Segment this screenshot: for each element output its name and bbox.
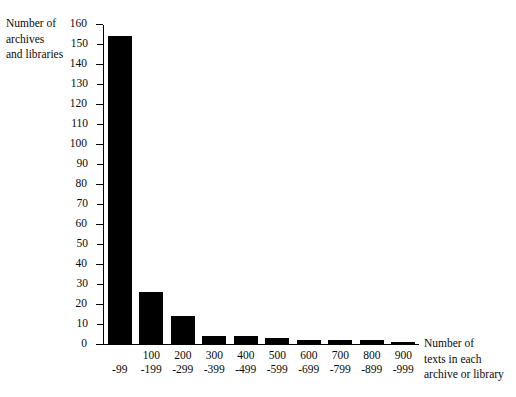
x-axis-tick-label: 600-699	[293, 348, 325, 376]
x-label-line2: -999	[388, 362, 420, 376]
y-axis-tick: 110	[97, 124, 103, 125]
y-axis-tick: 40	[96, 264, 103, 265]
x-label-line1: 600	[293, 348, 325, 362]
y-axis-tick: 50	[97, 244, 103, 245]
y-axis-tick-label: 80	[76, 176, 88, 191]
y-axis-tick: 100	[96, 144, 103, 145]
y-axis-tick-label: 110	[71, 116, 88, 131]
y-axis-tick: 70	[97, 204, 103, 205]
x-label-line2: -799	[325, 362, 357, 376]
bar-slot	[104, 25, 136, 344]
y-axis-tick: 0	[96, 344, 103, 345]
bar-slot	[262, 25, 294, 344]
y-axis-tick: 80	[96, 184, 103, 185]
x-label-line2: -99	[104, 362, 136, 376]
x-label-line2: -899	[356, 362, 388, 376]
x-axis-tick-label: 800-899	[356, 348, 388, 376]
y-axis-tick: 20	[96, 304, 103, 305]
x-label-line1: 700	[325, 348, 357, 362]
x-label-line1: 800	[356, 348, 388, 362]
y-axis-tick-label: 160	[70, 16, 87, 31]
y-axis-tick: 90	[97, 164, 103, 165]
y-axis-tick-label: 60	[76, 216, 88, 231]
bar	[139, 292, 163, 344]
bar-slot	[199, 25, 231, 344]
x-axis-title: Number of texts in each archive or libra…	[424, 336, 516, 383]
x-label-line1: 900	[388, 348, 420, 362]
x-axis-tick-label: 700-799	[325, 348, 357, 376]
bar	[328, 340, 352, 344]
bar	[108, 36, 132, 344]
y-axis-tick-label: 50	[77, 236, 89, 251]
y-axis-tick-label: 40	[76, 256, 88, 271]
x-axis-tick-label: 200-299	[167, 348, 199, 376]
y-axis-tick: 120	[96, 104, 103, 105]
bar	[234, 336, 258, 344]
y-axis-tick-label: 70	[77, 196, 89, 211]
bar	[391, 342, 415, 344]
bar	[171, 316, 195, 344]
x-label-line2: -399	[199, 362, 231, 376]
bar-slot	[293, 25, 325, 344]
y-axis-tick: 30	[97, 284, 103, 285]
y-axis-tick-label: 10	[77, 316, 89, 331]
bar-slot	[167, 25, 199, 344]
y-axis-tick-label: 20	[76, 296, 88, 311]
y-axis-tick-label: 130	[71, 76, 88, 91]
y-axis-tick-label: 120	[70, 96, 87, 111]
y-axis-tick: 130	[97, 84, 103, 85]
x-label-line1: 400	[230, 348, 262, 362]
y-axis-tick: 60	[96, 224, 103, 225]
x-axis-tick-labels: 0-99100-199200-299300-399400-499500-5996…	[104, 348, 419, 376]
x-label-line1: 500	[262, 348, 294, 362]
x-axis-tick-label: 900-999	[388, 348, 420, 376]
x-label-line2: -699	[293, 362, 325, 376]
x-label-line2: -499	[230, 362, 262, 376]
bar-slot	[388, 25, 420, 344]
bar	[265, 338, 289, 344]
x-label-line2: -199	[136, 362, 168, 376]
y-axis-tick-label: 90	[77, 156, 89, 171]
x-axis-line	[103, 344, 419, 345]
bar-slot	[356, 25, 388, 344]
x-axis-tick-label: 300-399	[199, 348, 231, 376]
y-axis-tick-label: 140	[70, 56, 87, 71]
bar-series	[104, 25, 419, 344]
bar	[360, 340, 384, 344]
x-label-line1: 100	[136, 348, 168, 362]
y-axis-tick-label: 100	[70, 136, 87, 151]
x-axis-tick-label: 0-99	[104, 348, 136, 376]
plot-area: 0102030405060708090100110120130140150160	[103, 25, 419, 345]
bar-slot	[230, 25, 262, 344]
y-axis-tick: 160	[96, 24, 103, 25]
x-label-line2: -299	[167, 362, 199, 376]
bar-slot	[136, 25, 168, 344]
x-label-line1: 200	[167, 348, 199, 362]
y-axis-tick: 10	[97, 324, 103, 325]
y-axis-tick-label: 0	[81, 336, 87, 351]
x-axis-tick-label: 100-199	[136, 348, 168, 376]
x-label-line2: -599	[262, 362, 294, 376]
x-axis-tick-label: 500-599	[262, 348, 294, 376]
bar	[202, 336, 226, 344]
y-axis-tick: 140	[96, 64, 103, 65]
x-axis-tick-label: 400-499	[230, 348, 262, 376]
y-axis-tick-label: 150	[71, 36, 88, 51]
bar	[297, 340, 321, 344]
bar-slot	[325, 25, 357, 344]
x-label-line1: 300	[199, 348, 231, 362]
y-axis-tick: 150	[97, 44, 103, 45]
y-axis-tick-label: 30	[77, 276, 89, 291]
